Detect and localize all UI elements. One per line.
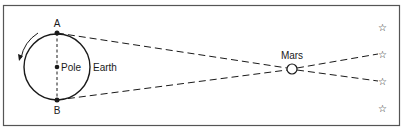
sightline-a-to-mars bbox=[57, 33, 287, 68]
label-point-b: B bbox=[54, 105, 61, 116]
star-icon: ☆ bbox=[378, 49, 387, 60]
label-mars: Mars bbox=[281, 50, 303, 61]
sightline-mars-to-star-3 bbox=[297, 70, 378, 81]
parallax-diagram: A B Pole Earth Mars ☆ ☆ ☆ ☆ bbox=[0, 0, 401, 131]
star-icon: ☆ bbox=[378, 76, 387, 87]
star-icon: ☆ bbox=[378, 103, 387, 114]
mars-circle bbox=[287, 64, 297, 74]
pole-dot bbox=[55, 65, 60, 70]
label-point-a: A bbox=[54, 18, 61, 29]
rotation-arrowhead-icon bbox=[18, 54, 23, 61]
sightline-b-to-mars bbox=[57, 70, 287, 100]
sightline-mars-to-star-2 bbox=[297, 54, 378, 68]
label-pole: Pole bbox=[61, 62, 81, 73]
star-icon: ☆ bbox=[378, 22, 387, 33]
rotation-arrow-icon bbox=[21, 33, 38, 58]
label-earth: Earth bbox=[93, 62, 117, 73]
